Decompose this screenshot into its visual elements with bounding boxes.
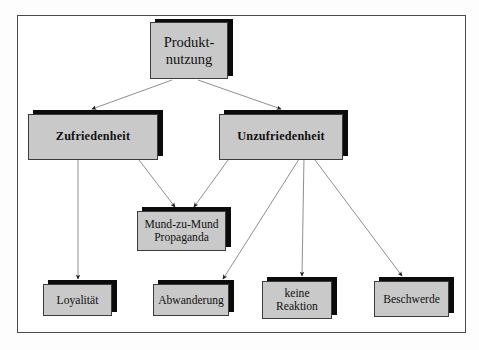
node-mundzumund[interactable]: Mund-zu-Mund Propaganda — [137, 211, 226, 251]
node-label-keinereaktion: keine Reaktion — [276, 287, 318, 313]
node-label-produktnutzung: Produkt- nutzung — [164, 34, 215, 66]
node-unzufriedenheit[interactable]: Unzufriedenheit — [219, 114, 343, 160]
node-produktnutzung[interactable]: Produkt- nutzung — [150, 22, 228, 79]
node-label-mundzumund: Mund-zu-Mund Propaganda — [144, 218, 218, 244]
node-beschwerde[interactable]: Beschwerde — [374, 281, 449, 317]
node-abwanderung[interactable]: Abwanderung — [153, 284, 229, 316]
node-keinereaktion[interactable]: keine Reaktion — [262, 281, 332, 319]
node-label-zufriedenheit: Zufriedenheit — [56, 130, 130, 144]
node-label-loyalitaet: Loyalität — [57, 294, 99, 307]
node-loyalitaet[interactable]: Loyalität — [43, 284, 112, 316]
node-zufriedenheit[interactable]: Zufriedenheit — [28, 114, 158, 160]
node-label-abwanderung: Abwanderung — [158, 294, 224, 307]
diagram-canvas: Produkt- nutzung Zufriedenheit Unzufried… — [0, 0, 479, 350]
node-label-beschwerde: Beschwerde — [383, 293, 440, 306]
node-label-unzufriedenheit: Unzufriedenheit — [237, 130, 325, 144]
